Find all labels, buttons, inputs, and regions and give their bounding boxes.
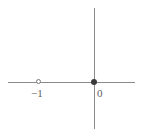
x-axis-line	[8, 82, 135, 83]
open-circle-point-at-negative-one	[36, 79, 41, 84]
number-line-figure: −1 0	[0, 0, 141, 137]
filled-circle-point-at-origin	[91, 79, 97, 85]
y-axis-line	[94, 8, 95, 129]
x-tick-label-zero: 0	[97, 88, 103, 99]
x-tick-label-negative-one: −1	[31, 88, 43, 99]
